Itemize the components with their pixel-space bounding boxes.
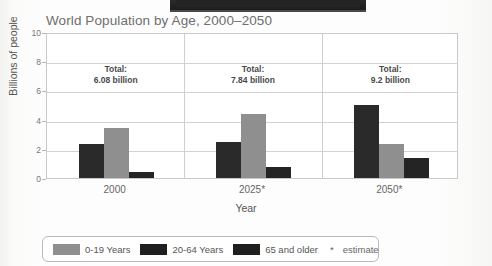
y-tick-label: 10 [15, 28, 41, 38]
group-divider [184, 34, 185, 178]
total-annotation: Total:9.2 billion [322, 64, 459, 86]
total-label-text: Total: [184, 64, 321, 75]
legend-item-65-older: 65 and older [233, 244, 318, 255]
total-value-text: 6.08 billion [47, 75, 184, 86]
x-tick-label: 2050* [349, 184, 429, 195]
legend-label-20-64: 20-64 Years [172, 244, 223, 255]
legend-item-0-19: 0-19 Years [53, 244, 130, 255]
plot-area: Total:6.08 billionTotal:7.84 billionTota… [46, 33, 458, 179]
x-tick-label: 2000 [75, 184, 155, 195]
photo-edge-artifact [170, 0, 366, 12]
footnote-asterisk-icon: * [330, 244, 334, 255]
total-annotation: Total:7.84 billion [184, 64, 321, 86]
legend-label-65-older: 65 and older [265, 244, 318, 255]
total-value-text: 7.84 billion [184, 75, 321, 86]
legend-footnote: * estimate [330, 244, 379, 255]
y-tick-label: 0 [15, 174, 41, 184]
chart-legend: 0-19 Years 20-64 Years 65 and older * es… [42, 236, 379, 262]
x-tick-label: 2025* [212, 184, 292, 195]
bar-0-19-years-2000 [104, 128, 129, 178]
chart-title: World Population by Age, 2000–2050 [46, 13, 272, 28]
y-tick-label: 2 [15, 145, 41, 155]
bar-20-64-years-2025 [216, 142, 241, 179]
bar-0-19-years-2050 [379, 144, 404, 178]
y-tick-label: 6 [15, 86, 41, 96]
total-value-text: 9.2 billion [322, 75, 459, 86]
footnote-text: estimate [343, 244, 379, 255]
y-tick-label: 4 [15, 116, 41, 126]
gridline [47, 92, 457, 93]
x-axis-label: Year [0, 202, 492, 214]
legend-swatch-icon-65-older [233, 244, 260, 255]
legend-label-0-19: 0-19 Years [85, 244, 130, 255]
bar-0-19-years-2025 [241, 114, 266, 178]
total-label-text: Total: [47, 64, 184, 75]
bar-65-and-older-2025 [266, 167, 291, 178]
legend-swatch-icon-20-64 [140, 244, 167, 255]
legend-swatch-icon-0-19 [53, 244, 80, 255]
total-label-text: Total: [322, 64, 459, 75]
total-annotation: Total:6.08 billion [47, 64, 184, 86]
bar-20-64-years-2050 [354, 105, 379, 178]
bar-65-and-older-2050 [404, 158, 429, 178]
y-tick-mark [42, 179, 46, 180]
legend-item-20-64: 20-64 Years [140, 244, 223, 255]
bar-20-64-years-2000 [79, 144, 104, 178]
y-tick-label: 8 [15, 57, 41, 67]
group-divider [322, 34, 323, 178]
bar-65-and-older-2000 [129, 172, 154, 178]
